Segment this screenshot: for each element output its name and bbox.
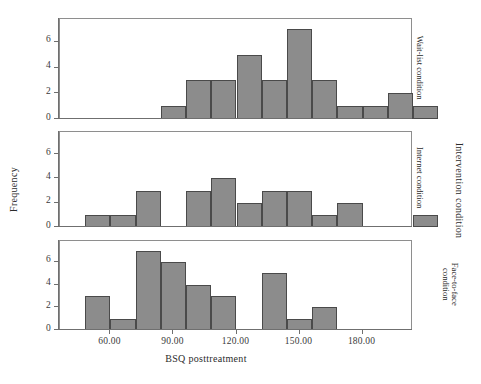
histogram-bar	[211, 80, 236, 119]
x-axis-baseline-internet	[59, 226, 412, 227]
y-tick-label: 2	[31, 300, 51, 310]
plot-area-internet	[60, 132, 411, 226]
histogram-bar	[237, 203, 262, 227]
y-tick-mark	[54, 202, 58, 203]
x-tick-mark	[172, 330, 173, 334]
histogram-bar	[85, 296, 110, 330]
histogram-bar	[337, 203, 362, 227]
histogram-bar	[186, 80, 211, 119]
y-tick-mark	[54, 153, 58, 154]
plot-area-face-to-face	[60, 241, 411, 329]
histogram-bar	[237, 55, 262, 119]
y-tick-mark	[54, 261, 58, 262]
y-axis-line-internet	[58, 131, 59, 227]
histogram-bar	[312, 307, 337, 330]
panel-internet	[59, 131, 412, 227]
y-tick-mark	[54, 41, 58, 42]
y-tick-label: 6	[31, 254, 51, 264]
y-axis-line-wait-list	[58, 18, 59, 119]
x-tick-mark	[109, 330, 110, 334]
strip-label-internet: Internet condition	[414, 141, 423, 215]
y-tick-label: 4	[31, 171, 51, 181]
panel-wait-list	[59, 18, 412, 119]
histogram-bar	[388, 93, 413, 119]
histogram-bar	[287, 29, 312, 119]
x-tick-mark	[299, 330, 300, 334]
histogram-bar	[186, 285, 211, 330]
x-tick-mark	[362, 330, 363, 334]
strip-label-wait-list: Wait-list condition	[414, 30, 423, 104]
histogram-bar	[211, 178, 236, 227]
y-tick-label: 6	[31, 34, 51, 44]
histogram-bar	[262, 80, 287, 119]
y-tick-label: 2	[31, 86, 51, 96]
y-tick-label: 4	[31, 277, 51, 287]
y-tick-label: 0	[31, 112, 51, 122]
x-tick-label: 180.00	[337, 336, 387, 346]
histogram-figure: 0246Wait-list condition0246Internet cond…	[0, 0, 481, 384]
y-axis-title: Frequency	[8, 155, 19, 225]
x-tick-label: 60.00	[84, 336, 134, 346]
panel-face-to-face	[59, 240, 412, 330]
x-tick-label: 150.00	[274, 336, 324, 346]
x-tick-mark	[236, 330, 237, 334]
histogram-bar	[413, 215, 438, 227]
strip-label-face-to-face: Face-to-face condition	[441, 249, 460, 319]
outer-right-label: Intervention condition	[454, 136, 465, 246]
y-tick-mark	[54, 67, 58, 68]
histogram-bar	[262, 191, 287, 227]
x-axis-title: BSQ posttreatment	[0, 353, 412, 364]
y-tick-mark	[54, 284, 58, 285]
x-tick-label: 90.00	[147, 336, 197, 346]
histogram-bar	[211, 296, 236, 330]
histogram-bar	[161, 262, 186, 330]
histogram-bar	[312, 80, 337, 119]
y-tick-mark	[54, 92, 58, 93]
y-tick-label: 0	[31, 220, 51, 230]
y-tick-label: 4	[31, 60, 51, 70]
histogram-bar	[186, 191, 211, 227]
histogram-bar	[262, 273, 287, 330]
y-tick-mark	[54, 306, 58, 307]
histogram-bar	[136, 191, 161, 227]
y-tick-mark	[54, 177, 58, 178]
y-tick-label: 2	[31, 195, 51, 205]
histogram-bar	[136, 251, 161, 330]
x-tick-label: 120.00	[211, 336, 261, 346]
plot-area-wait-list	[60, 19, 411, 118]
y-tick-mark	[54, 226, 58, 227]
y-axis-line-face-to-face	[58, 240, 59, 330]
y-tick-label: 6	[31, 147, 51, 157]
histogram-bar	[413, 106, 438, 119]
histogram-bar	[287, 191, 312, 227]
y-tick-mark	[54, 118, 58, 119]
x-axis-baseline-wait-list	[59, 118, 412, 119]
y-tick-label: 0	[31, 323, 51, 333]
y-tick-mark	[54, 329, 58, 330]
